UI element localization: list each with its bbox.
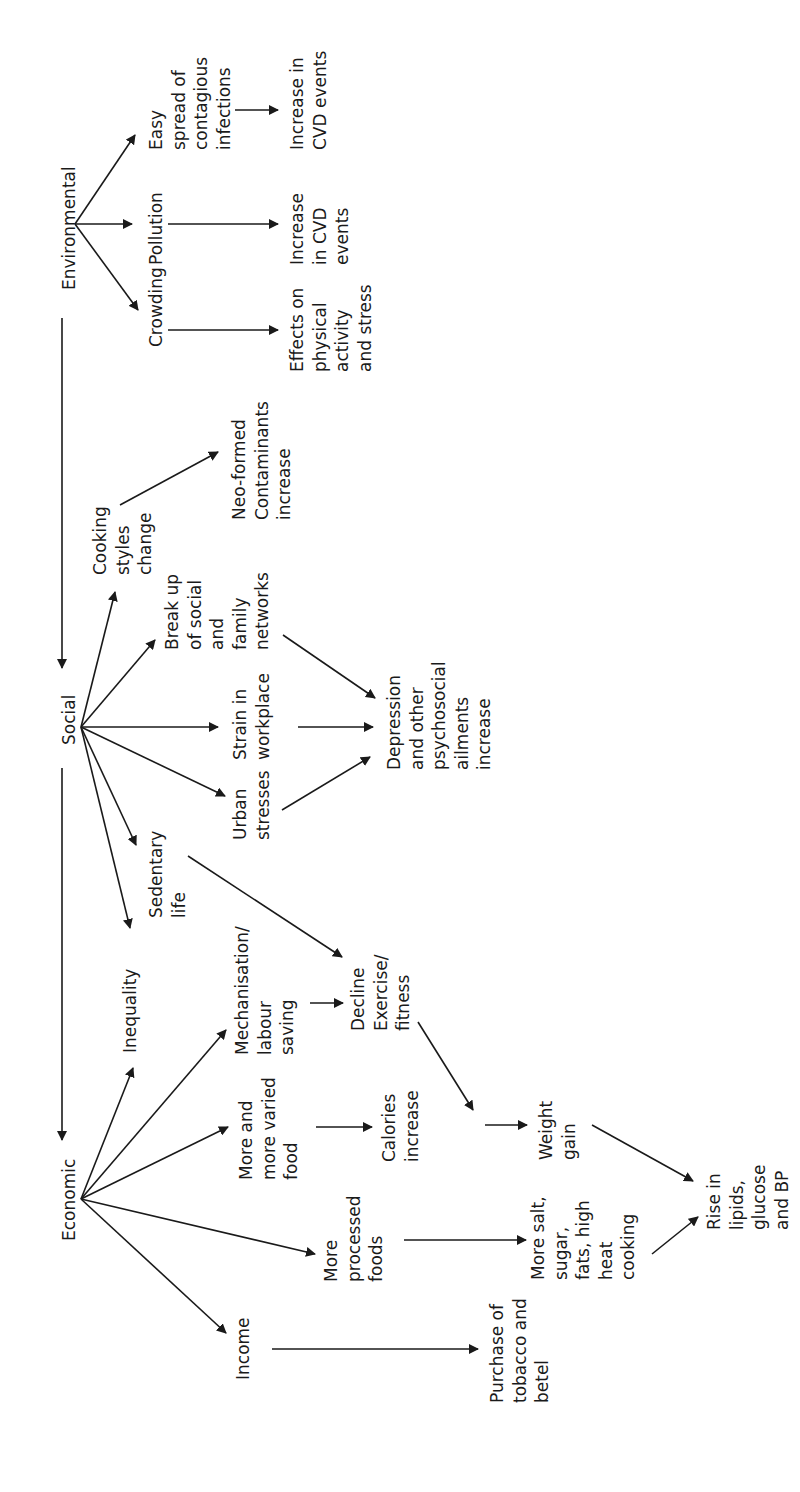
node-label-line: fitness	[393, 975, 413, 1031]
node-label-line: spread of	[169, 69, 189, 150]
node-label-line: fats, high	[573, 1200, 593, 1280]
arrow-economic-to-mechanisation	[81, 1030, 226, 1199]
node-label-line: Social	[59, 695, 79, 745]
node-label-line: contagious	[191, 57, 211, 150]
arrow-economic-to-more-varied-food	[81, 1127, 228, 1199]
node-label-line: ailments	[452, 697, 472, 770]
node-label-line: heat	[596, 1241, 616, 1280]
node-label-line: and stress	[355, 284, 375, 372]
node-mechanisation: Mechanisation/laboursaving	[232, 926, 297, 1055]
node-label-line: Income	[233, 1317, 253, 1380]
node-crowding: Crowding	[146, 267, 166, 347]
arrow-social-to-inequality	[81, 727, 130, 928]
node-label-line: events	[332, 208, 352, 265]
node-label-line: life	[169, 892, 189, 918]
arrow-sedentary-to-decline-exercise	[188, 856, 342, 957]
node-label-line: labour	[255, 1001, 275, 1055]
node-label-line: More and	[236, 1100, 256, 1180]
node-label-line: More salt,	[528, 1196, 548, 1280]
node-label-line: and BP	[772, 1171, 792, 1230]
node-label-line: processed	[344, 1195, 364, 1282]
node-label-line: Mechanisation/	[232, 926, 252, 1055]
node-label-line: gain	[559, 1123, 579, 1160]
arrow-environmental-to-easy-spread	[75, 135, 135, 224]
arrow-economic-to-inequality	[81, 1068, 133, 1199]
node-label-line: More	[321, 1240, 341, 1282]
node-pollution: Pollution	[146, 192, 166, 265]
node-label-line: sugar,	[551, 1227, 571, 1280]
node-label-line: Urban	[230, 789, 250, 840]
node-increase-cvd-top: Increase inCVD events	[287, 51, 330, 150]
node-label-line: Inequality	[120, 969, 140, 1053]
node-label-line: and other	[407, 687, 427, 770]
flow-diagram: EnvironmentalCrowdingPollutionEasyspread…	[0, 0, 800, 1492]
node-more-processed: Moreprocessedfoods	[321, 1195, 386, 1282]
node-label-line: Environmental	[59, 166, 79, 290]
node-more-salt: More salt,sugar,fats, highheatcooking	[528, 1196, 638, 1280]
node-label-line: physical	[310, 302, 330, 372]
node-label-line: glucose	[749, 1165, 769, 1230]
node-effects-physical: Effects onphysicalactivityand stress	[287, 284, 375, 372]
node-weight-gain: Weightgain	[536, 1100, 579, 1160]
node-environmental: Environmental	[59, 166, 79, 290]
node-decline-exercise: DeclineExercise/fitness	[348, 954, 413, 1031]
node-label-line: Pollution	[146, 192, 166, 265]
node-label-line: family	[230, 598, 250, 650]
node-label-line: in CVD	[310, 208, 330, 266]
node-label-line: increase	[474, 698, 494, 770]
node-social: Social	[59, 695, 79, 745]
node-label-line: Decline	[348, 967, 368, 1031]
arrow-economic-to-more-processed	[81, 1199, 315, 1254]
node-label-line: Purchase of	[487, 1303, 507, 1403]
node-calories: Caloriesincrease	[379, 1090, 422, 1162]
node-neo-formed: Neo-formedContaminantsincrease	[229, 401, 294, 520]
node-label-line: food	[281, 1142, 301, 1180]
arrow-economic-to-income	[81, 1199, 226, 1333]
node-label-line: lipids,	[727, 1180, 747, 1230]
node-label-line: Increase	[287, 193, 307, 265]
node-label-line: change	[135, 512, 155, 575]
arrow-social-to-sedentary	[81, 727, 136, 845]
node-label-line: Strain in	[230, 689, 250, 760]
node-label-line: saving	[277, 999, 297, 1055]
arrow-weight-gain-to-rise-lipids	[592, 1125, 693, 1181]
node-label-line: stresses	[253, 770, 273, 840]
node-label-line: Crowding	[146, 267, 166, 347]
node-label-line: Effects on	[287, 288, 307, 372]
node-label-line: Exercise/	[371, 954, 391, 1031]
node-label-line: increase	[274, 448, 294, 520]
node-label-line: CVD events	[310, 51, 330, 150]
node-label-line: activity	[332, 309, 352, 372]
node-label-line: cooking	[618, 1214, 638, 1280]
node-label-line: Economic	[59, 1159, 79, 1241]
node-label-line: and	[207, 618, 227, 650]
arrow-more-salt-to-rise-lipids	[652, 1217, 698, 1254]
node-label-line: foods	[366, 1235, 386, 1282]
node-break-up: Break upof socialandfamilynetworks	[162, 572, 272, 650]
node-rise-lipids: Rise inlipids,glucoseand BP	[704, 1165, 792, 1230]
node-income: Income	[233, 1317, 253, 1380]
arrow-break-up-to-depression	[283, 635, 375, 698]
node-label-line: Rise in	[704, 1173, 724, 1230]
node-urban-stresses: Urbanstresses	[230, 770, 273, 840]
node-sedentary: Sedentarylife	[146, 831, 189, 918]
node-label-line: Weight	[536, 1100, 556, 1160]
arrow-cooking-styles-to-neo-formed	[120, 452, 218, 505]
node-easy-spread: Easyspread ofcontagiousinfections	[146, 57, 234, 150]
node-label-line: workplace	[253, 673, 273, 760]
node-increase-cvd-mid: Increasein CVDevents	[287, 193, 352, 265]
node-label-line: of social	[185, 580, 205, 650]
arrow-decline-exercise-to-weight-gain	[418, 1022, 473, 1110]
node-inequality: Inequality	[120, 969, 140, 1053]
node-label-line: Contaminants	[252, 401, 272, 520]
arrow-social-to-urban-stresses	[81, 727, 225, 796]
node-cooking-styles: Cookingstyleschange	[90, 506, 155, 575]
arrow-environmental-to-crowding	[75, 224, 138, 310]
node-more-varied-food: More andmore variedfood	[236, 1077, 301, 1180]
node-label-line: tobacco and	[510, 1298, 530, 1403]
node-label-line: Increase in	[287, 57, 307, 150]
node-label-line: Calories	[379, 1093, 399, 1162]
node-label-line: Depression	[384, 675, 404, 770]
node-label-line: networks	[252, 572, 272, 650]
arrow-urban-stresses-to-depression	[282, 757, 370, 810]
